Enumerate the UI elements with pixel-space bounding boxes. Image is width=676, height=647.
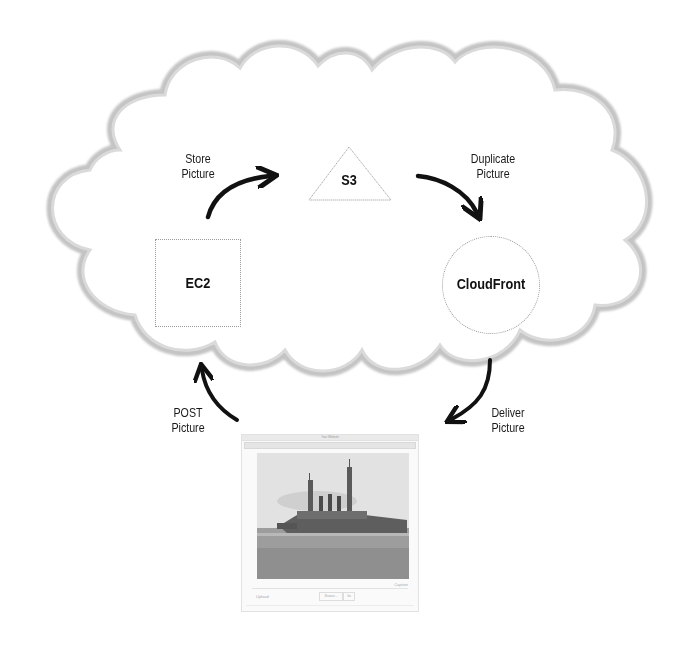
battleship-photo	[257, 453, 409, 579]
browser-window: Your Website	[241, 434, 419, 612]
go-button[interactable]: Go	[343, 592, 355, 601]
ec2-label: EC2	[173, 274, 224, 291]
store-picture-label: Store Picture	[173, 151, 222, 181]
duplicate-picture-label: Duplicate Picture	[462, 151, 524, 181]
browse-button[interactable]: Browse...	[319, 592, 343, 601]
upload-label: Upload	[256, 594, 269, 599]
deliver-picture-line1: Deliver	[481, 405, 535, 420]
store-picture-line1: Store	[173, 151, 222, 166]
architecture-diagram: S3 EC2 CloudFront Store Picture Duplicat…	[0, 0, 676, 647]
cloud-outline	[53, 46, 647, 371]
browser-titlebar: Your Website	[242, 435, 418, 441]
deliver-picture-label: Deliver Picture	[481, 405, 535, 435]
cloudfront-label: CloudFront	[444, 275, 538, 292]
divider	[252, 588, 408, 589]
battleship-illustration-icon	[257, 453, 409, 579]
browser-address-bar	[244, 442, 416, 449]
duplicate-picture-line1: Duplicate	[462, 151, 524, 166]
s3-label: S3	[332, 171, 366, 188]
duplicate-picture-line2: Picture	[462, 166, 524, 181]
post-picture-label: POST Picture	[163, 405, 212, 435]
post-picture-line1: POST	[163, 405, 212, 420]
store-picture-line2: Picture	[173, 166, 222, 181]
post-picture-line2: Picture	[163, 420, 212, 435]
photo-caption: Caption	[394, 582, 408, 587]
deliver-picture-line2: Picture	[481, 420, 535, 435]
divider	[246, 605, 414, 606]
